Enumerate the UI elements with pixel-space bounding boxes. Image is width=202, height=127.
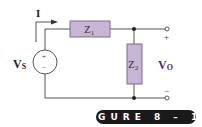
circuit-diagram: I Z1 Z2 + − + − VS VO bbox=[0, 0, 202, 127]
terminal-bottom bbox=[165, 96, 169, 100]
source-minus: − bbox=[42, 64, 46, 72]
minus-sign: − bbox=[164, 86, 169, 96]
current-arrow-icon bbox=[36, 20, 58, 43]
source-plus: + bbox=[42, 53, 46, 61]
source-voltage-label: VS bbox=[13, 57, 27, 71]
plus-sign: + bbox=[164, 32, 169, 42]
output-voltage-label: VO bbox=[158, 58, 173, 72]
figure-caption-banner: FIGURE 8 – 14 bbox=[96, 110, 196, 124]
terminal-top bbox=[165, 27, 169, 31]
node-bottom bbox=[132, 96, 136, 100]
wires bbox=[45, 29, 165, 98]
node-top bbox=[132, 27, 136, 31]
current-label: I bbox=[36, 7, 40, 19]
